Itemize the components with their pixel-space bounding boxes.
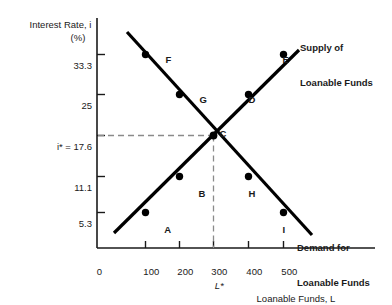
data-point-label-c: C (209, 117, 226, 151)
y-tick-label-25-text: 25 (81, 100, 92, 111)
loanable-funds-supply-demand-chart: Interest Rate, i (%) 33.3 25 i* = 17.6 1… (0, 0, 392, 305)
data-point-label-i-text: I (283, 224, 286, 235)
data-point-label-e-text: E (283, 54, 289, 65)
data-point-label-b: B (188, 177, 205, 211)
x-tick-label-200: 200 (166, 255, 194, 289)
data-point-label-a: A (154, 213, 171, 247)
data-point-label-h: H (238, 177, 255, 211)
x-tick-label-100-text: 100 (143, 266, 159, 277)
data-point-b (176, 173, 183, 180)
demand-curve-label-line1: Demand for (297, 242, 370, 254)
data-point-label-e: E (272, 43, 289, 77)
x-tick-label-200-text: 200 (177, 266, 193, 277)
y-tick-label-11: 11.1 (47, 171, 92, 205)
supply-curve (114, 50, 299, 233)
supply-curve-label-line1: Supply of (300, 42, 373, 54)
data-point-label-g-text: G (200, 94, 207, 105)
data-point-label-d-text: D (249, 94, 256, 105)
demand-curve-label-line2: Loanable Funds (297, 277, 370, 289)
data-point-label-f: F (155, 43, 171, 77)
y-tick-label-equilibrium-text: i* = 17.6 (57, 141, 92, 152)
data-point-label-b-text: B (199, 188, 206, 199)
data-point-g (176, 91, 183, 98)
x-tick-label-100: 100 (132, 255, 160, 289)
data-point-label-h-text: H (249, 188, 256, 199)
y-tick-label-25: 25 (47, 89, 92, 123)
y-tick-label-33: 33.3 (47, 49, 92, 83)
equilibrium-quantity-label: L* (200, 269, 228, 303)
supply-curve-label-line2: Loanable Funds (300, 77, 373, 89)
equilibrium-quantity-label-text: L* (215, 280, 224, 291)
y-axis-ticks (97, 55, 105, 213)
data-point-label-f-text: F (166, 54, 172, 65)
x-tick-label-0: 0 (83, 255, 105, 289)
data-point-label-a-text: A (164, 224, 171, 235)
y-tick-label-5: 5.3 (47, 207, 92, 241)
data-point-a (142, 209, 149, 216)
data-point-label-i: I (272, 213, 285, 247)
y-axis-unit-text: (%) (71, 32, 86, 43)
y-tick-label-5-text: 5.3 (79, 218, 92, 229)
data-point-label-d: D (238, 83, 255, 117)
demand-curve-label: Demand for Loanable Funds (297, 219, 370, 305)
x-tick-label-0-text: 0 (97, 266, 102, 277)
data-point-label-c-text: C (220, 128, 227, 139)
y-tick-label-33-text: 33.3 (74, 60, 93, 71)
y-tick-label-11-text: 11.1 (74, 182, 92, 193)
y-tick-label-equilibrium: i* = 17.6 (20, 130, 92, 164)
data-point-f (142, 51, 149, 58)
data-point-label-g: G (189, 83, 207, 117)
x-tick-label-500-text: 500 (281, 266, 297, 277)
x-tick-label-400-text: 400 (246, 266, 262, 277)
supply-curve-label: Supply of Loanable Funds (300, 19, 373, 112)
